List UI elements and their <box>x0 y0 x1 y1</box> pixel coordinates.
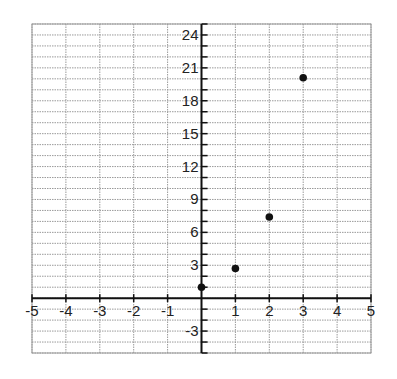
x-tick-label: 3 <box>299 302 307 319</box>
data-point <box>266 213 274 221</box>
y-tick-label: 12 <box>182 158 199 175</box>
y-tick-label: 9 <box>190 190 198 207</box>
x-tick-label: -2 <box>127 302 140 319</box>
data-point <box>232 265 240 273</box>
x-tick-label: -3 <box>93 302 106 319</box>
x-tick-label: -5 <box>25 302 38 319</box>
y-tick-label: 21 <box>182 59 199 76</box>
x-tick-label: -4 <box>59 302 72 319</box>
x-tick-label: 5 <box>367 302 375 319</box>
coordinate-plane: -5-4-3-2-112345 -33691215182124 <box>0 0 397 379</box>
y-tick-label: 15 <box>182 125 199 142</box>
y-tick-label: -3 <box>185 322 198 339</box>
data-point <box>299 74 307 82</box>
x-tick-label: 2 <box>265 302 273 319</box>
x-tick-label: 1 <box>231 302 239 319</box>
data-point <box>198 283 206 291</box>
y-tick-label: 3 <box>190 256 198 273</box>
y-tick-label: 6 <box>190 223 198 240</box>
y-tick-label: 18 <box>182 92 199 109</box>
y-tick-label: 24 <box>182 26 199 43</box>
x-tick-label: 4 <box>333 302 341 319</box>
x-tick-label: -1 <box>161 302 174 319</box>
